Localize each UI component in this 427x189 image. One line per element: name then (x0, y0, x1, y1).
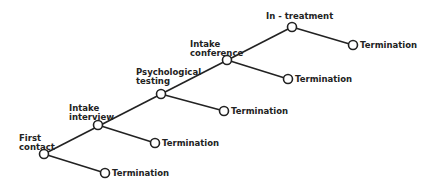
termination-node (284, 75, 293, 84)
label-intake-conference: Intake conference (190, 40, 243, 58)
node-psychological-testing (157, 90, 166, 99)
termination-label: Termination (360, 41, 417, 50)
termination-node (151, 139, 160, 148)
label-in-treatment: In - treatment (266, 12, 333, 21)
termination-node (220, 107, 229, 116)
flow-diagram: First contact Intake interview Psycholog… (0, 0, 427, 189)
label-psychological-testing: Psychological testing (136, 68, 201, 86)
label-first-contact: First contact (19, 134, 55, 152)
node-in-treatment (288, 23, 297, 32)
label-line: testing (136, 77, 201, 86)
termination-label: Termination (162, 139, 219, 148)
termination-label: Termination (231, 107, 288, 116)
label-intake-interview: Intake interview (69, 104, 114, 122)
termination-label: Termination (112, 169, 169, 178)
label-line: conference (190, 49, 243, 58)
label-line: contact (19, 143, 55, 152)
diagram-edges (0, 0, 427, 189)
label-line: In - treatment (266, 12, 333, 21)
label-line: interview (69, 113, 114, 122)
termination-label: Termination (295, 75, 352, 84)
termination-node (101, 169, 110, 178)
termination-node (349, 41, 358, 50)
